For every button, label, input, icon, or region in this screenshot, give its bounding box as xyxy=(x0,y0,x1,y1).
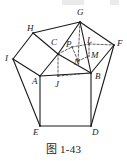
vertex-point-F xyxy=(113,44,114,45)
vertex-label-N: N xyxy=(73,57,81,67)
vertex-point-M xyxy=(88,55,89,56)
vertex-label-B: B xyxy=(95,71,101,81)
edge-G-F xyxy=(80,22,114,45)
figure-caption: 图 1-43 xyxy=(0,140,127,156)
vertex-label-I: I xyxy=(4,53,9,63)
vertex-point-H xyxy=(32,32,33,33)
vertex-point-A xyxy=(39,75,40,76)
vertex-point-J xyxy=(57,75,58,76)
vertex-label-F: F xyxy=(116,38,123,48)
vertex-label-D: D xyxy=(91,127,99,137)
vertex-label-group: GHIFCABJEDPLMN xyxy=(4,7,123,137)
vertex-point-L xyxy=(88,43,89,44)
edge-G-B xyxy=(80,22,91,73)
edge-H-I xyxy=(13,33,33,59)
edge-C-A xyxy=(40,54,58,76)
vertex-label-M: M xyxy=(90,50,99,60)
vertex-label-J: J xyxy=(55,79,60,89)
vertex-point-G xyxy=(79,21,80,22)
geometry-diagram: GHIFCABJEDPLMN xyxy=(0,0,127,161)
edge-I-A xyxy=(13,59,40,76)
vertex-point-D xyxy=(90,125,91,126)
vertex-point-E xyxy=(39,125,40,126)
vertex-label-A: A xyxy=(31,76,38,86)
vertex-point-B xyxy=(90,72,91,73)
vertex-point-P xyxy=(71,46,72,47)
vertex-point-N xyxy=(77,60,78,61)
vertex-point-I xyxy=(12,58,13,59)
vertex-label-H: H xyxy=(26,23,34,33)
vertex-label-C: C xyxy=(51,37,58,47)
figure-container: GHIFCABJEDPLMN 图 1-43 xyxy=(0,0,127,161)
vertex-label-G: G xyxy=(77,7,84,17)
edge-G-N-hidden xyxy=(78,22,80,61)
vertex-point-C xyxy=(57,53,58,54)
edge-I-E xyxy=(13,59,40,126)
vertex-label-P: P xyxy=(65,39,72,49)
vertex-label-E: E xyxy=(32,127,39,137)
edge-L-F-hidden xyxy=(89,44,114,45)
